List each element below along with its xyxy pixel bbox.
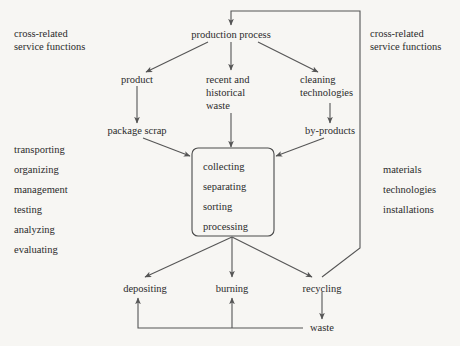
right-panel-resource-0: materials — [383, 164, 421, 175]
edge-waste-to-depositing — [138, 298, 303, 328]
node-product: product — [121, 74, 153, 85]
process-step-3: processing — [203, 221, 249, 232]
left-panel-function-4: analyzing — [14, 224, 56, 235]
left-panel-function-0: transporting — [14, 144, 65, 155]
node-production-process: production process — [191, 29, 271, 40]
edge-process-box-to-recycling — [232, 237, 312, 277]
node-package-scrap: package scrap — [107, 125, 166, 136]
edge-production-to-cleaning — [258, 42, 318, 72]
edge-by-products-to-process-box — [276, 138, 324, 156]
flow-diagram-canvas: production process product recent and hi… — [0, 0, 460, 346]
left-panel-function-1: organizing — [14, 164, 59, 175]
left-panel-heading-line1: cross-related — [14, 28, 68, 39]
edge-package-scrap-to-process-box — [143, 138, 190, 156]
node-burning: burning — [216, 283, 249, 294]
left-panel-function-3: testing — [14, 204, 43, 215]
process-step-1: separating — [203, 181, 247, 192]
left-panel-function-2: management — [14, 184, 68, 195]
node-cleaning-line1: cleaning — [300, 74, 336, 85]
process-step-0: collecting — [203, 161, 245, 172]
right-panel-heading-line1: cross-related — [370, 28, 424, 39]
node-depositing: depositing — [123, 283, 167, 294]
node-cleaning-line2: technologies — [300, 87, 353, 98]
edge-production-to-product — [146, 42, 208, 72]
node-recycling: recycling — [302, 283, 342, 294]
edge-process-box-to-depositing — [145, 237, 232, 277]
node-by-products: by-products — [305, 125, 355, 136]
node-recent-waste-line1: recent and — [206, 74, 250, 85]
process-step-2: sorting — [203, 201, 233, 212]
node-waste: waste — [310, 322, 334, 333]
edge-recycling-to-production — [231, 11, 360, 277]
process-flow-diagram: production process product recent and hi… — [0, 0, 460, 346]
left-panel-heading-line2: service functions — [14, 41, 85, 52]
right-panel-heading-line2: service functions — [370, 41, 441, 52]
node-recent-waste-line2: historical — [206, 87, 245, 98]
left-panel-function-5: evaluating — [14, 244, 58, 255]
right-panel-resource-2: installations — [383, 204, 434, 215]
right-panel-resource-1: technologies — [383, 184, 436, 195]
node-recent-waste-line3: waste — [206, 100, 230, 111]
